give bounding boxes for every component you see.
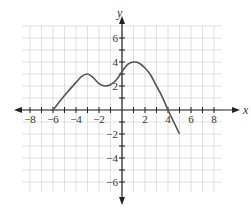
x-tick-label: 8 [211,113,217,125]
down-arrow-icon [119,197,125,205]
y-tick-label: −6 [106,176,118,188]
x-tick-label: −8 [24,113,36,125]
x-tick-label: 6 [188,113,194,125]
x-tick-label: 2 [142,113,148,125]
x-tick-label: −4 [70,113,82,125]
right-arrow-icon [232,107,240,113]
x-axis-label: x [242,103,249,117]
y-axis-label: y [116,6,123,20]
left-arrow-icon [14,107,22,113]
x-tick-label: −2 [93,113,105,125]
axes [14,16,240,205]
y-tick-label: 6 [113,32,119,44]
y-tick-label: −4 [106,152,118,164]
x-tick-label: −6 [47,113,59,125]
y-tick-label: 4 [113,56,119,68]
y-tick-label: −2 [106,128,118,140]
function-graph: −8−6−4−22468−6−4−2246 x y [0,0,251,211]
